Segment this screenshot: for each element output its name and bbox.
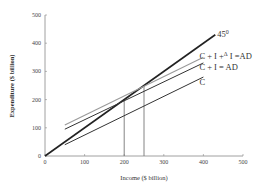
series-label: C + I = AD	[199, 62, 237, 72]
y-tick-label: 400	[32, 40, 41, 46]
line-labels: 450C + I +Δ I =ADC + I = ADC	[199, 29, 251, 87]
x-tick-label: 400	[199, 159, 208, 165]
x-tick-label: 0	[44, 159, 47, 165]
x-axis-title: Income ($ billion)	[120, 174, 167, 182]
series-label: 450	[217, 29, 229, 39]
y-tick-label: 300	[32, 68, 41, 74]
series-line	[65, 77, 204, 145]
y-tick-label: 100	[32, 125, 41, 131]
x-tick-label: 100	[80, 159, 89, 165]
income-expenditure-chart: 01002003004005000100200300400500 450C + …	[0, 0, 269, 184]
y-tick-label: 500	[32, 12, 41, 18]
y-tick-label: 200	[32, 97, 41, 103]
x-tick-label: 500	[239, 159, 248, 165]
series-lines	[45, 35, 215, 156]
series-label: C + I +Δ I =AD	[199, 51, 251, 61]
series-label: C	[199, 77, 205, 87]
x-tick-label: 300	[159, 159, 168, 165]
series-line	[65, 57, 204, 125]
y-tick-label: 0	[38, 153, 41, 159]
series-line	[65, 63, 204, 129]
series-line	[45, 35, 215, 156]
y-axis-title: Expenditure ($ billion)	[8, 54, 16, 117]
x-tick-label: 200	[120, 159, 129, 165]
